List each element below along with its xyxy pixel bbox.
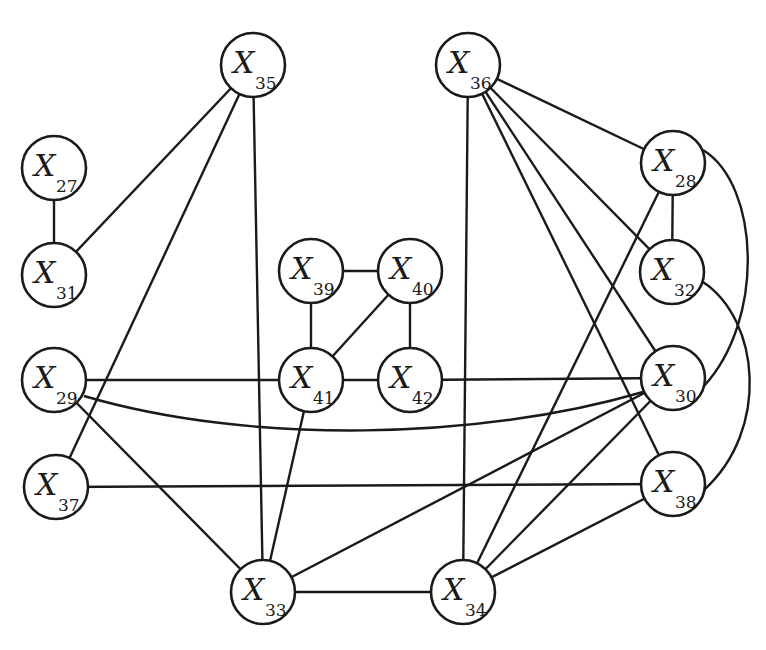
node-label-variable: X: [289, 360, 314, 395]
edges-layer: [54, 65, 750, 592]
node-x30: X30: [641, 346, 705, 410]
node-x37: X37: [24, 455, 88, 519]
node-label-subscript: 27: [56, 176, 78, 196]
node-label-variable: X: [446, 45, 471, 80]
node-label-subscript: 30: [675, 386, 697, 406]
node-x38: X38: [641, 452, 705, 516]
node-label-variable: X: [231, 45, 256, 80]
node-label-variable: X: [388, 360, 413, 395]
graph-svg: X35X36X27X28X31X32X39X40X29X41X42X30X37X…: [0, 0, 766, 650]
node-x36: X36: [436, 33, 500, 97]
node-label-subscript: 41: [313, 388, 335, 408]
node-label-subscript: 32: [674, 280, 696, 300]
node-x42: X42: [378, 348, 442, 412]
node-label-variable: X: [651, 143, 676, 178]
edge-x36-x34: [463, 65, 468, 592]
node-x32: X32: [640, 240, 704, 304]
node-label-subscript: 38: [675, 492, 697, 512]
node-label-subscript: 39: [313, 279, 335, 299]
node-label-subscript: 37: [58, 495, 80, 515]
node-x35: X35: [221, 33, 285, 97]
node-x41: X41: [279, 348, 343, 412]
node-label-variable: X: [651, 464, 676, 499]
node-label-subscript: 28: [675, 171, 697, 191]
node-x29: X29: [22, 348, 86, 412]
node-label-variable: X: [289, 251, 314, 286]
edge-x32-x38: [703, 282, 750, 490]
edge-x35-x33: [253, 65, 263, 592]
node-x40: X40: [378, 239, 442, 303]
node-label-subscript: 29: [56, 388, 78, 408]
node-label-subscript: 31: [56, 283, 78, 303]
node-x27: X27: [22, 136, 86, 200]
node-label-subscript: 36: [470, 73, 492, 93]
node-label-subscript: 34: [465, 600, 487, 620]
graph-diagram: X35X36X27X28X31X32X39X40X29X41X42X30X37X…: [0, 0, 766, 650]
node-label-variable: X: [651, 358, 676, 393]
node-label-variable: X: [32, 255, 57, 290]
node-label-variable: X: [32, 360, 57, 395]
node-x28: X28: [641, 131, 705, 195]
nodes-layer: X35X36X27X28X31X32X39X40X29X41X42X30X37X…: [22, 33, 705, 624]
node-label-variable: X: [441, 572, 466, 607]
node-label-variable: X: [34, 467, 59, 502]
node-label-subscript: 42: [412, 388, 434, 408]
edge-x42-x30: [410, 378, 673, 380]
node-label-variable: X: [650, 252, 675, 287]
edge-x28-x30: [703, 150, 748, 386]
edge-x37-x38: [56, 484, 673, 487]
node-label-variable: X: [32, 148, 57, 183]
node-label-variable: X: [241, 572, 266, 607]
node-label-subscript: 40: [412, 279, 434, 299]
node-x34: X34: [431, 560, 495, 624]
node-x31: X31: [22, 243, 86, 307]
node-label-variable: X: [388, 251, 413, 286]
node-x33: X33: [231, 560, 295, 624]
edge-x34-x38: [463, 484, 673, 592]
node-x39: X39: [279, 239, 343, 303]
node-label-subscript: 35: [255, 73, 277, 93]
edge-x36-x30: [468, 65, 673, 378]
node-label-subscript: 33: [265, 600, 287, 620]
